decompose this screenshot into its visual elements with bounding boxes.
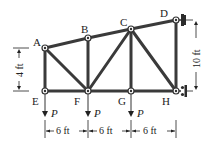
svg-text:P: P [93,107,101,119]
svg-text:6 ft: 6 ft [99,125,113,136]
label-A: A [33,36,41,48]
joint-C [128,26,134,32]
load-F: P [85,94,101,119]
label-H: H [162,95,170,107]
loads: P P P [42,94,144,119]
member-CD [131,20,176,29]
truss-members [45,20,176,91]
label-D: D [160,7,168,19]
arrow-down-icon [42,111,48,117]
truss-diagram: A B C D E F G H P P P 4 ft [0,0,210,153]
label-C: C [120,16,127,28]
label-B: B [81,23,88,35]
arrow-down-icon [85,111,91,117]
load-E: P [42,94,58,119]
label-E: E [32,95,39,107]
svg-text:4 ft: 4 ft [14,63,25,77]
joint-B [85,35,91,41]
dimension-spans: 6 ft 6 ft 6 ft [45,120,176,138]
joint-A [42,45,48,51]
svg-text:6 ft: 6 ft [56,125,70,136]
dimension-right-height: 10 ft [191,21,202,90]
arrow-down-icon [128,111,134,117]
svg-text:P: P [50,107,58,119]
joint-G [128,88,134,94]
label-G: G [118,95,126,107]
member-CH [131,29,176,91]
joint-D [173,17,179,23]
label-F: F [74,95,80,107]
svg-text:10 ft: 10 ft [191,49,202,68]
member-FC [88,29,131,91]
dimension-left-height: 4 ft [13,48,29,91]
joints [42,17,179,94]
joint-F [85,88,91,94]
joint-E [42,88,48,94]
svg-text:6 ft: 6 ft [143,125,157,136]
joint-H [173,88,179,94]
load-G: P [128,94,144,119]
member-AB [45,38,88,48]
member-AF [45,48,88,91]
svg-text:P: P [136,107,144,119]
